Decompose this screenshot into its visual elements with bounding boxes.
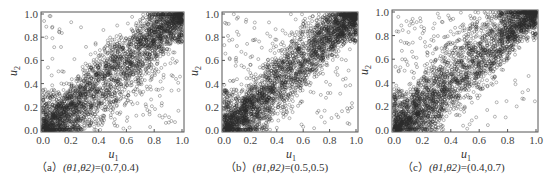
y-tick-label: 0.4 <box>375 77 389 89</box>
x-tick-label: 0.8 <box>501 134 515 146</box>
y-tick-label: 0.2 <box>205 101 219 113</box>
caption-prefix: （c） <box>402 161 429 173</box>
panel-caption-c: （c）(θ1,θ2)=(0.4,0.7) <box>402 158 505 174</box>
y-axis-label: u2 <box>187 66 203 76</box>
x-tick-label: 0.4 <box>444 134 458 146</box>
data-points <box>42 13 184 132</box>
x-tick-label: 0.0 <box>36 134 50 146</box>
y-tick-label: 0.0 <box>205 124 219 136</box>
y-axis-label: u2 <box>6 66 22 76</box>
y-tick-label: 0.8 <box>375 30 389 42</box>
x-tick-label: 0.2 <box>416 134 430 146</box>
x-tick-label: 0.0 <box>217 134 231 146</box>
x-tick-label: 1.0 <box>529 134 543 146</box>
scatter-panel-b: 0.00.00.20.20.40.40.60.60.80.81.01.0u1u2… <box>185 0 362 183</box>
panel-caption-a: （a）(θ1,θ2)=(0.7,0.4) <box>36 158 139 174</box>
y-tick-label: 0.2 <box>24 101 38 113</box>
scatter-panel-c: 0.00.00.20.20.40.40.60.60.80.81.01.0u1u2… <box>362 0 552 183</box>
y-tick-label: 1.0 <box>375 6 389 18</box>
caption-params: (θ1,θ2) <box>429 161 461 173</box>
data-points <box>393 11 538 132</box>
x-tick-label: 0.4 <box>270 134 284 146</box>
caption-prefix: （b） <box>225 161 253 173</box>
y-tick-label: 0.8 <box>205 31 219 43</box>
y-tick-label: 1.0 <box>24 8 38 20</box>
x-tick-label: 0.0 <box>387 134 401 146</box>
caption-values: =(0.7,0.4) <box>95 161 139 173</box>
y-tick-label: 0.0 <box>24 124 38 136</box>
y-tick-label: 0.4 <box>205 78 219 90</box>
y-tick-label: 0.6 <box>375 53 389 65</box>
x-tick-label: 0.2 <box>244 134 258 146</box>
caption-params: (θ1,θ2) <box>63 161 95 173</box>
y-tick-label: 0.6 <box>24 54 38 66</box>
x-tick-label: 0.4 <box>92 134 106 146</box>
y-tick-label: 0.4 <box>24 78 38 90</box>
y-tick-label: 0.6 <box>205 54 219 66</box>
x-tick-label: 0.6 <box>120 134 134 146</box>
caption-values: =(0.4,0.7) <box>461 161 505 173</box>
scatter-plot-c: 0.00.00.20.20.40.40.60.60.80.81.01.0u1u2 <box>362 0 552 160</box>
x-tick-label: 0.2 <box>64 134 78 146</box>
panel-caption-b: （b）(θ1,θ2)=(0.5,0.5) <box>225 158 328 174</box>
caption-params: (θ1,θ2) <box>253 161 285 173</box>
data-points <box>223 13 358 132</box>
y-tick-label: 0.0 <box>375 124 389 136</box>
scatter-plot-a: 0.00.00.20.20.40.40.60.60.80.81.01.0u1u2 <box>0 0 190 160</box>
scatter-plot-b: 0.00.00.20.20.40.40.60.60.80.81.01.0u1u2 <box>185 0 375 160</box>
x-tick-label: 0.6 <box>472 134 486 146</box>
y-tick-label: 0.8 <box>24 31 38 43</box>
caption-values: =(0.5,0.5) <box>284 161 328 173</box>
x-tick-label: 0.6 <box>296 134 310 146</box>
x-tick-label: 0.8 <box>147 134 161 146</box>
x-tick-label: 0.8 <box>323 134 337 146</box>
y-tick-label: 1.0 <box>205 8 219 20</box>
y-tick-label: 0.2 <box>375 100 389 112</box>
scatter-panel-a: 0.00.00.20.20.40.40.60.60.80.81.01.0u1u2… <box>0 0 190 183</box>
caption-prefix: （a） <box>36 161 63 173</box>
